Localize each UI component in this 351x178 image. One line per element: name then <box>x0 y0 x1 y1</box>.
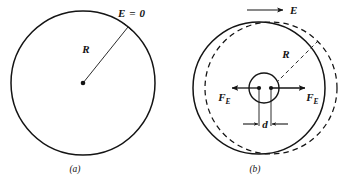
panel-a-center-dot <box>81 81 86 86</box>
panel-b-caption: (b) <box>249 164 260 175</box>
panel-a-caption: (a) <box>69 164 80 175</box>
panel-b-separation-label: d <box>262 118 268 130</box>
panel-b-force-right-subscript: E <box>312 97 318 106</box>
panel-b: E R F E F E <box>193 4 337 175</box>
figure-canvas: R E = 0 (a) E R F <box>0 0 351 178</box>
panel-b-field-label: E <box>289 4 297 16</box>
panel-a-radius-label: R <box>81 43 89 55</box>
panel-a-field-label: E = 0 <box>117 7 146 19</box>
panel-b-radius-label: R <box>281 48 289 60</box>
panel-a-radius-line <box>83 27 128 83</box>
panel-a: R E = 0 (a) <box>11 7 155 175</box>
physics-figure: R E = 0 (a) E R F <box>0 0 351 178</box>
panel-b-force-left-subscript: E <box>224 97 230 106</box>
panel-b-radius-line <box>271 41 318 88</box>
